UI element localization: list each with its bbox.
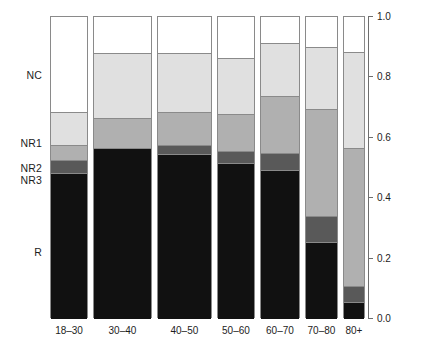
bar-80+[interactable]: [343, 16, 365, 318]
x-tick-label: 50–60: [222, 325, 250, 336]
bar-segment-nc[interactable]: [218, 17, 254, 58]
bar-segment-r[interactable]: [306, 242, 337, 319]
bar-segment-nr1[interactable]: [306, 47, 337, 109]
y-tick-mark: [368, 197, 373, 198]
x-tick-label: 60–70: [266, 325, 294, 336]
bar-segment-nr2[interactable]: [51, 145, 87, 160]
bar-segment-r[interactable]: [218, 163, 254, 319]
row-label-r: R: [34, 246, 42, 258]
bar-segment-nr1[interactable]: [51, 112, 87, 145]
bar-5060[interactable]: [217, 16, 255, 318]
bar-segment-r[interactable]: [94, 148, 151, 319]
bar-segment-nr2[interactable]: [306, 109, 337, 216]
bar-segment-nr3[interactable]: [158, 145, 211, 154]
bar-segment-nr3[interactable]: [218, 151, 254, 163]
y-tick-label: 0.0: [377, 313, 391, 324]
y-tick-mark: [368, 16, 373, 17]
bar-segment-nc[interactable]: [344, 17, 364, 52]
x-tick-label: 40–50: [171, 325, 199, 336]
x-tick-label: 18–30: [55, 325, 83, 336]
bar-segment-nc[interactable]: [306, 17, 337, 47]
bar-6070[interactable]: [260, 16, 300, 318]
bar-segment-nr2[interactable]: [344, 148, 364, 285]
bar-segment-nr1[interactable]: [261, 43, 299, 96]
bar-segment-nr2[interactable]: [218, 114, 254, 152]
y-tick-label: 1.0: [377, 11, 391, 22]
y-tick-mark: [368, 76, 373, 77]
bar-segment-nc[interactable]: [51, 17, 87, 112]
bar-segment-r[interactable]: [261, 170, 299, 319]
bar-segment-nr2[interactable]: [158, 112, 211, 145]
bar-3040[interactable]: [93, 16, 152, 318]
y-axis: 0.00.20.40.60.81.0: [368, 0, 421, 358]
bar-segment-r[interactable]: [51, 173, 87, 319]
bar-segment-nc[interactable]: [158, 17, 211, 53]
bar-1830[interactable]: [50, 16, 88, 318]
y-tick-mark: [368, 318, 373, 319]
bar-segment-r[interactable]: [158, 154, 211, 319]
bar-segment-r[interactable]: [344, 302, 364, 319]
y-tick-mark: [368, 137, 373, 138]
spineplot-chart: NCNR1NR2NR3R 18–3030–4040–5050–6060–7070…: [0, 0, 421, 358]
bar-7080[interactable]: [305, 16, 338, 318]
bar-segment-nc[interactable]: [261, 17, 299, 43]
row-label-nc: NC: [26, 69, 42, 81]
bar-segment-nr3[interactable]: [261, 153, 299, 170]
row-label-nr3: NR3: [20, 174, 42, 186]
bar-4050[interactable]: [157, 16, 212, 318]
bar-segment-nr1[interactable]: [158, 53, 211, 112]
bar-segment-nc[interactable]: [94, 17, 151, 53]
bar-segment-nr1[interactable]: [94, 53, 151, 118]
x-axis: 18–3030–4040–5050–6060–7070–8080+: [50, 322, 365, 344]
y-tick-label: 0.4: [377, 192, 391, 203]
bar-segment-nr3[interactable]: [344, 286, 364, 303]
y-tick-label: 0.6: [377, 131, 391, 142]
bar-segment-nr3[interactable]: [306, 216, 337, 242]
x-tick-label: 70–80: [308, 325, 336, 336]
bar-segment-nr1[interactable]: [344, 52, 364, 149]
row-label-nr2: NR2: [20, 162, 42, 174]
plot-area: [50, 16, 365, 318]
x-tick-label: 30–40: [109, 325, 137, 336]
x-tick-label: 80+: [346, 325, 363, 336]
bar-segment-nr1[interactable]: [218, 58, 254, 114]
bar-segment-nr2[interactable]: [261, 96, 299, 153]
bar-segment-nr2[interactable]: [94, 118, 151, 148]
row-label-nr1: NR1: [20, 137, 42, 149]
y-tick-label: 0.2: [377, 252, 391, 263]
y-tick-mark: [368, 258, 373, 259]
bar-segment-nr3[interactable]: [51, 160, 87, 172]
y-axis-line: [368, 16, 369, 318]
y-tick-label: 0.8: [377, 71, 391, 82]
